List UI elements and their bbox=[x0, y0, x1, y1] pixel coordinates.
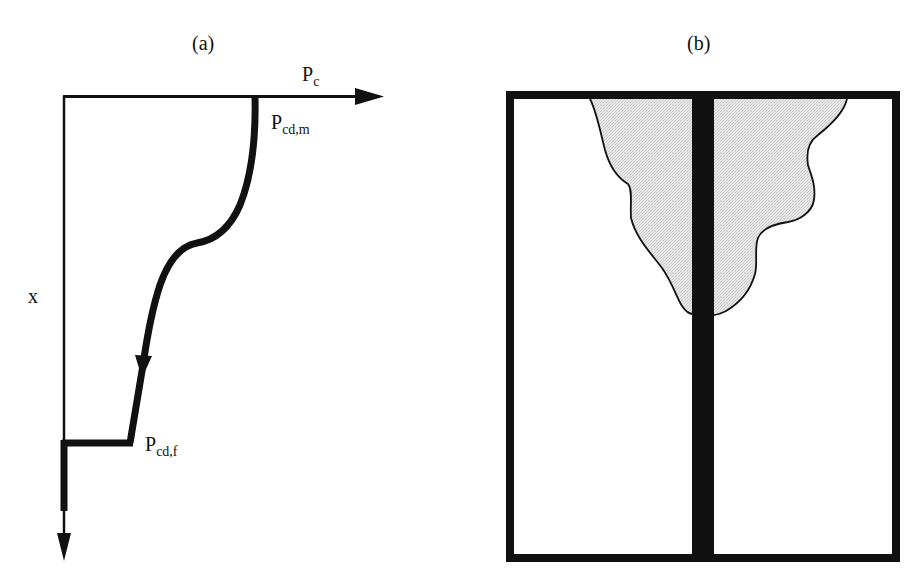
figure: (a) Pc Pcd,m x Pcd,f (b) bbox=[0, 0, 924, 584]
panel-b-title: (b) bbox=[687, 33, 710, 53]
axis-x-arrowhead-icon bbox=[57, 533, 71, 561]
panel-a-title: (a) bbox=[192, 33, 214, 53]
curve-direction-arrow-icon bbox=[135, 355, 152, 378]
pcdm-label: Pcd,m bbox=[271, 112, 310, 132]
figure-canvas bbox=[0, 0, 924, 584]
panel-a bbox=[57, 88, 384, 561]
axis-pc-arrowhead-icon bbox=[355, 88, 384, 105]
axis-pc-label: Pc bbox=[302, 64, 319, 84]
panel-b bbox=[510, 92, 896, 560]
pcdm-label-main: P bbox=[271, 111, 282, 133]
profile-curve bbox=[130, 97, 255, 443]
pcdf-label-sub: cd,f bbox=[156, 444, 177, 459]
shaded-region-right bbox=[713, 99, 847, 315]
pcdf-label-main: P bbox=[145, 433, 156, 455]
pcdm-label-sub: cd,m bbox=[282, 122, 310, 137]
axis-pc-label-main: P bbox=[302, 63, 313, 85]
axis-x-label: x bbox=[28, 286, 38, 306]
pcdf-label: Pcd,f bbox=[145, 434, 178, 454]
shaded-region-left bbox=[590, 99, 693, 314]
axis-pc-label-sub: c bbox=[313, 74, 319, 89]
central-bar bbox=[692, 92, 714, 560]
